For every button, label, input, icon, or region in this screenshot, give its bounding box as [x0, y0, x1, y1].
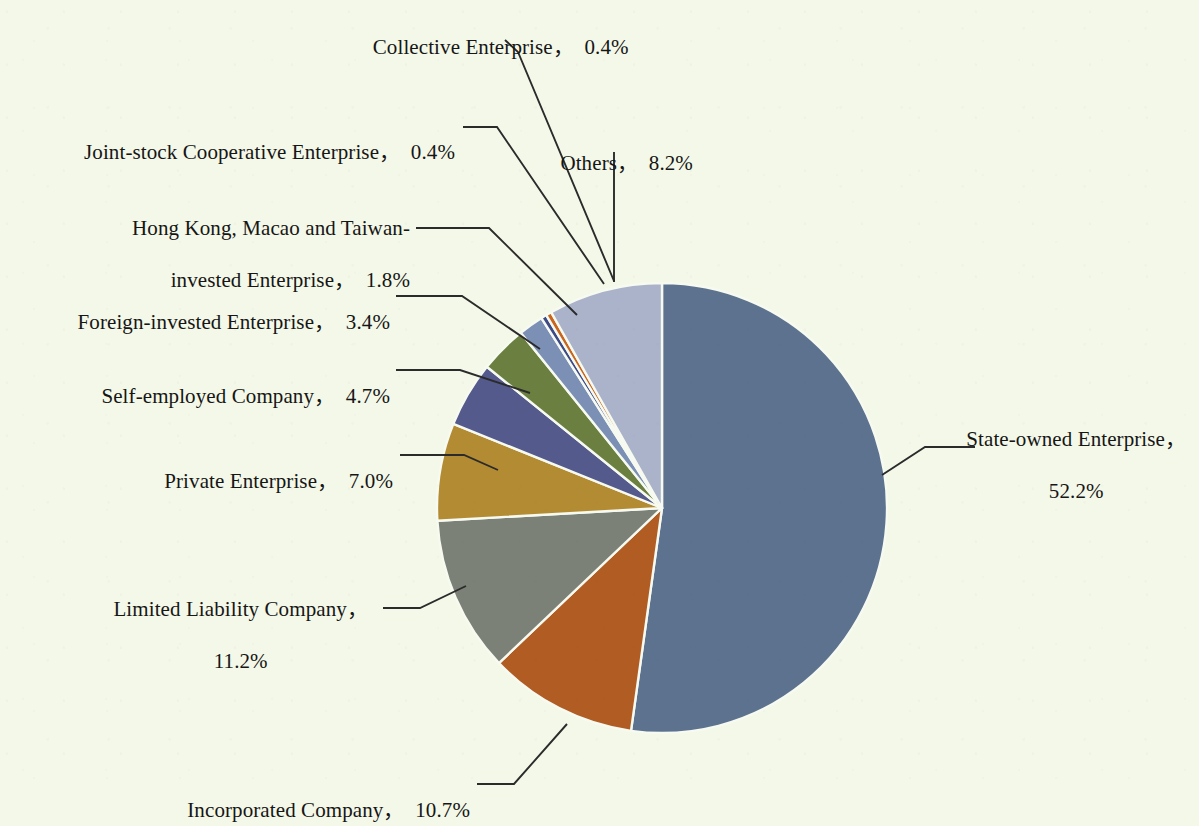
label-foreign-invested-enterprise-text: Foreign-invested Enterprise， 3.4% — [78, 310, 391, 334]
label-private-enterprise-text: Private Enterprise， 7.0% — [164, 469, 393, 493]
label-collective-enterprise-text: Collective Enterprise， 0.4% — [373, 35, 629, 59]
label-limited-liability-company-line1: Limited Liability Company， — [113, 597, 368, 621]
label-others: Others， 8.2% — [539, 124, 799, 202]
pie-slices-group — [437, 283, 887, 733]
label-state-owned-enterprise: State-owned Enterprise， 52.2% — [932, 400, 1199, 530]
leader-line-incorporated — [477, 724, 567, 784]
label-collective-enterprise: Collective Enterprise， 0.4% — [330, 8, 650, 86]
label-incorporated-company-text: Incorporated Company， 10.7% — [187, 798, 470, 822]
label-private-enterprise: Private Enterprise， 7.0% — [0, 442, 393, 520]
label-foreign-invested-enterprise: Foreign-invested Enterprise， 3.4% — [0, 283, 390, 361]
label-others-text: Others， 8.2% — [560, 151, 693, 175]
label-state-owned-enterprise-line1: State-owned Enterprise， — [966, 427, 1186, 451]
label-limited-liability-company: Limited Liability Company， 11.2% — [80, 570, 380, 700]
leader-line-hk-macao — [416, 228, 577, 315]
label-joint-stock-cooperative-enterprise-text: Joint-stock Cooperative Enterprise， 0.4% — [84, 140, 455, 164]
label-incorporated-company: Incorporated Company， 10.7% — [70, 771, 470, 826]
label-hk-macao-line1: Hong Kong, Macao and Taiwan- — [132, 216, 410, 240]
label-limited-liability-company-line2: 11.2% — [214, 649, 268, 673]
label-self-employed-company-text: Self-employed Company， 4.7% — [101, 384, 390, 408]
pie-slice — [631, 283, 887, 733]
label-joint-stock-cooperative-enterprise: Joint-stock Cooperative Enterprise， 0.4% — [0, 113, 455, 191]
label-self-employed-company: Self-employed Company， 4.7% — [0, 357, 390, 435]
label-state-owned-enterprise-line2: 52.2% — [1049, 479, 1104, 503]
